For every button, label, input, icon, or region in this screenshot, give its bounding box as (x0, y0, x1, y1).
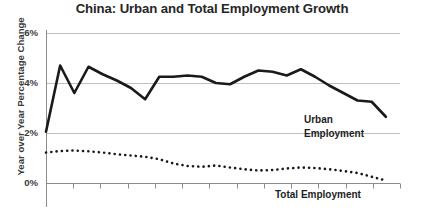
urban-employment-label-line1: Urban (304, 114, 333, 125)
urban-employment-label-line2: Employment (304, 128, 364, 139)
chart-container: China: Urban and Total Employment Growth… (0, 0, 424, 216)
x-axis-ticks (47, 184, 401, 189)
series-line-total-employment (46, 151, 386, 181)
plot-area (0, 0, 424, 216)
total-employment-label: Total Employment (275, 189, 361, 200)
gridlines (46, 34, 400, 184)
series-line-urban-employment (46, 66, 386, 132)
